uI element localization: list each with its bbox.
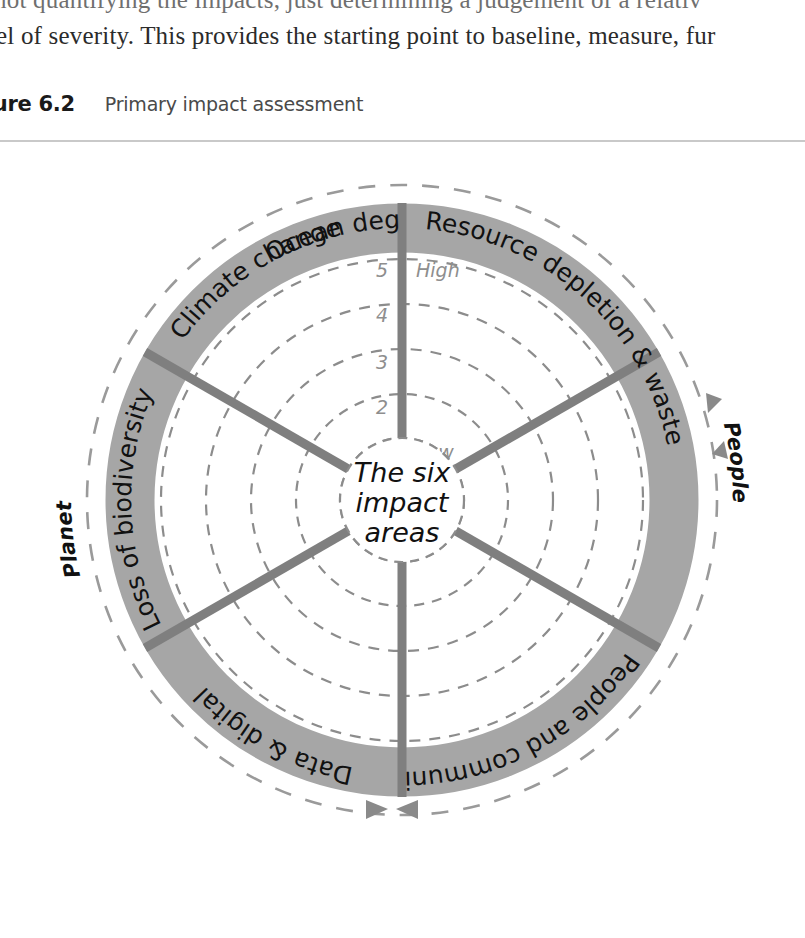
scale-tick-4: 4 xyxy=(376,304,388,326)
group-label-planet: Planet xyxy=(52,500,85,581)
figure-caption: gure 6.2 Primary impact assessment xyxy=(0,92,363,116)
scale-tick-2: 2 xyxy=(376,396,388,418)
severity-scale-ticks: 5 4 3 2 1 xyxy=(376,259,388,463)
primary-impact-assessment-wheel: Resource depletion & waste People and co… xyxy=(0,145,805,938)
sector-label-data-text: Data & digital xyxy=(188,682,355,790)
arrowhead-bottom-right-icon xyxy=(366,800,388,819)
arrowhead-right-down-icon xyxy=(706,393,722,413)
group-label-people: People xyxy=(719,419,752,503)
center-text-line-3: areas xyxy=(365,517,440,548)
page-body-text-line-2: el of severity. This provides the starti… xyxy=(0,22,716,50)
sector-label-data-and-digital: Data & digital xyxy=(188,682,355,790)
center-hub: The six impact areas xyxy=(340,438,464,562)
scale-label-high: High xyxy=(416,259,460,281)
caption-divider xyxy=(0,140,805,142)
figure-number-label: gure 6.2 xyxy=(0,92,75,116)
group-label-planet-text: Planet xyxy=(52,500,85,581)
page-body-text-line-1: not quantifying the impacts, just determ… xyxy=(0,0,702,14)
scale-tick-5: 5 xyxy=(376,259,388,281)
scale-tick-3: 3 xyxy=(376,351,388,373)
center-text-line-1: The six xyxy=(354,457,451,488)
group-label-people-text: People xyxy=(719,419,752,503)
severity-scale-words: High Low xyxy=(416,259,460,463)
center-text-line-2: impact xyxy=(356,487,450,518)
figure-title: Primary impact assessment xyxy=(105,93,364,115)
